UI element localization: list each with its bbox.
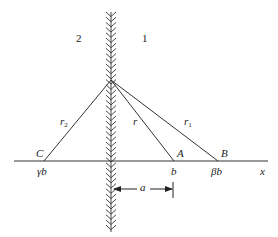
x-axis-label: x: [260, 166, 265, 177]
segment-r2: [44, 80, 111, 161]
region-2-label: 2: [76, 33, 82, 44]
segment-r-base: r: [133, 115, 137, 127]
point-A-coord: b: [171, 166, 177, 177]
segment-r1-sub: 1: [188, 121, 192, 129]
point-B-coord: βb: [211, 166, 222, 177]
diagram-graphics: [0, 0, 278, 237]
distance-a-label: a: [140, 182, 146, 193]
point-C-coord: γb: [37, 166, 47, 177]
region-1-label: 1: [142, 33, 148, 44]
diagram-canvas: 2 1 r2 r r1 C A B γb b βb x a: [0, 0, 278, 237]
segment-r2-sub: 2: [64, 121, 68, 129]
segment-r-label: r: [133, 116, 137, 127]
segment-r1-label: r1: [184, 116, 192, 129]
interface-wall: [106, 12, 116, 232]
point-B-label: B: [221, 148, 228, 159]
point-A-label: A: [177, 148, 184, 159]
point-C-label: C: [36, 148, 43, 159]
segment-r2-label: r2: [60, 116, 68, 129]
